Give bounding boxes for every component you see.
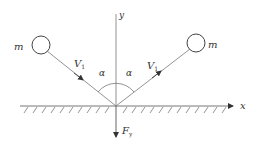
mass-left-icon [32,36,50,54]
mass-left-label: m [14,42,23,52]
velocity-out-subscript: 1 [154,65,158,72]
force-symbol: F [122,125,129,136]
collision-diagram: m m V1 V1 α α y x Fy [0,0,261,150]
ground-hatching [24,107,226,113]
angle-right-label: α [126,69,132,78]
force-subscript: y [129,130,132,137]
mass-right-label: m [208,40,217,50]
y-axis-label: y [119,11,124,20]
force-label: Fy [122,126,132,137]
outgoing-velocity-arrow [152,71,161,78]
mass-right-icon [187,34,205,52]
velocity-out-label: V1 [147,61,158,72]
angle-left-label: α [99,69,105,78]
velocity-in-subscript: 1 [81,63,85,70]
x-axis-label: x [240,101,246,111]
velocity-in-label: V1 [74,59,85,70]
incoming-velocity-arrow [74,73,83,80]
